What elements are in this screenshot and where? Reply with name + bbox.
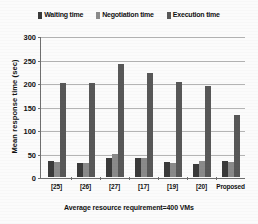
y-axis-tick-label: 150: [23, 103, 36, 112]
legend-label: Execution time: [173, 11, 220, 19]
x-axis-tick-label: [26]: [80, 183, 91, 190]
legend-swatch-icon: [96, 12, 100, 19]
x-axis-tick-mark: [187, 177, 188, 180]
x-axis-tick-mark: [100, 177, 101, 180]
bar: [205, 86, 211, 177]
y-axis-tick-label: 0: [32, 174, 36, 183]
x-axis-tick-mark: [216, 177, 217, 180]
y-axis-tick-label: 100: [23, 127, 36, 136]
x-axis-title: Average resource requirement=400 VMs: [0, 204, 258, 211]
x-axis-tick-mark: [129, 177, 130, 180]
y-axis-tick-label: 200: [23, 80, 36, 89]
bar-group: [20]: [187, 37, 216, 177]
legend-item: Negotiation time: [96, 11, 154, 19]
bar-group: Proposed: [216, 37, 245, 177]
chart-figure: Waiting timeNegotiation timeExecution ti…: [0, 0, 258, 224]
bar-group: [19]: [158, 37, 187, 177]
plot-area: 050100150200250300 [25][26][27][17][19][…: [40, 37, 245, 179]
legend-label: Negotiation time: [102, 11, 154, 19]
legend-item: Execution time: [167, 11, 220, 19]
legend-swatch-icon: [38, 12, 42, 19]
legend-label: Waiting time: [44, 11, 83, 19]
y-axis-tick-mark: [38, 61, 41, 62]
y-axis-tick-label: 300: [23, 33, 36, 42]
x-axis-tick-label: Proposed: [216, 183, 244, 190]
y-axis-tick-label: 50: [28, 150, 36, 159]
y-axis-tick-label: 250: [23, 56, 36, 65]
y-axis-title: Mean response time (sec): [10, 59, 19, 153]
legend-swatch-icon: [167, 12, 171, 19]
x-axis-tick-label: [27]: [109, 183, 120, 190]
bar: [60, 83, 66, 177]
bar: [89, 83, 95, 177]
bar-group: [25]: [42, 37, 71, 177]
x-axis-tick-label: [20]: [196, 183, 207, 190]
bar: [118, 64, 124, 177]
y-axis-tick-mark: [38, 84, 41, 85]
y-axis-tick-mark: [38, 178, 41, 179]
y-axis-tick-mark: [38, 37, 41, 38]
x-axis-tick-mark: [158, 177, 159, 180]
bar-group: [26]: [71, 37, 100, 177]
bar-groups: [25][26][27][17][19][20]Proposed: [42, 37, 245, 177]
y-axis-tick-mark: [38, 131, 41, 132]
bar: [147, 73, 153, 177]
y-axis-tick-mark: [38, 155, 41, 156]
chart-legend: Waiting timeNegotiation timeExecution ti…: [0, 11, 258, 19]
legend-item: Waiting time: [38, 11, 83, 19]
bar: [176, 82, 182, 177]
bar-group: [27]: [100, 37, 129, 177]
bar: [234, 115, 240, 177]
bar-group: [17]: [129, 37, 158, 177]
y-axis-title-wrapper: Mean response time (sec): [6, 34, 22, 179]
y-axis-tick-mark: [38, 108, 41, 109]
x-axis-tick-label: [17]: [138, 183, 149, 190]
x-axis-tick-mark: [71, 177, 72, 180]
x-axis-tick-label: [19]: [167, 183, 178, 190]
x-axis-tick-label: [25]: [51, 183, 62, 190]
